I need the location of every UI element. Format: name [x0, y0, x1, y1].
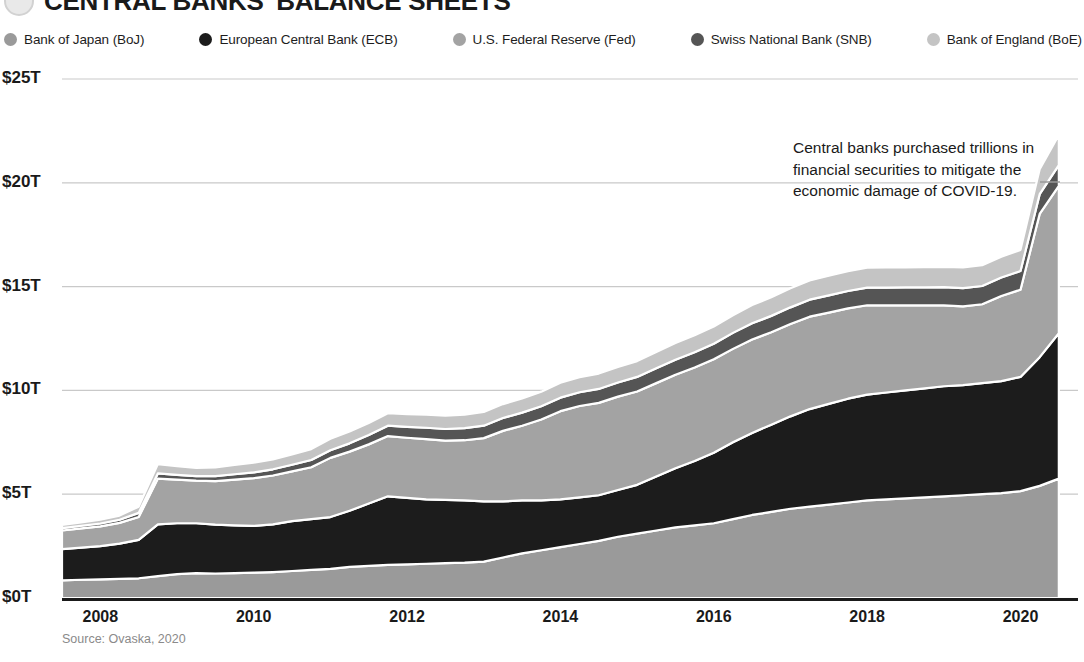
chart-plot-area: $0T$5T$10T$15T$20T$25T200820102012201420…: [0, 0, 1084, 662]
x-axis-tick-4: 2016: [674, 608, 754, 626]
x-axis-tick-6: 2020: [980, 608, 1060, 626]
x-axis-tick-0: 2008: [60, 608, 140, 626]
y-axis-tick-3: $15T: [2, 276, 41, 296]
x-axis-tick-1: 2010: [214, 608, 294, 626]
x-axis-tick-3: 2014: [520, 608, 600, 626]
covid-annotation: Central banks purchased trillions in fin…: [793, 137, 1038, 202]
stacked-area-chart: [0, 0, 1084, 662]
x-axis-tick-2: 2012: [367, 608, 447, 626]
y-axis-tick-4: $20T: [2, 172, 41, 192]
x-axis-tick-5: 2018: [827, 608, 907, 626]
y-axis-tick-1: $5T: [2, 483, 31, 503]
y-axis-tick-2: $10T: [2, 379, 41, 399]
y-axis-tick-0: $0T: [2, 587, 31, 607]
x-axis-line: [62, 598, 1078, 601]
source-note: Source: Ovaska, 2020: [62, 632, 186, 646]
y-axis-tick-5: $25T: [2, 68, 41, 88]
